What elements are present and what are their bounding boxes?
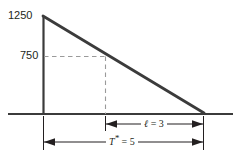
lead-time-equals: = [148, 118, 159, 129]
lead-time-dimension-label: ℓ = 3 [141, 118, 167, 129]
cycle-time-equals: = [119, 136, 130, 147]
cycle-time-arrow-right [192, 138, 203, 146]
cycle-time-arrow-left [44, 138, 55, 146]
lead-time-value: 3 [159, 118, 164, 129]
cycle-time-value: 5 [130, 136, 135, 147]
inventory-depletion-figure: 1250 750 ℓ = 3 T* = 5 [0, 0, 241, 164]
peak-inventory-label: 1250 [8, 9, 32, 21]
cycle-time-dimension-label: T* = 5 [106, 136, 138, 147]
lead-time-arrow-left [106, 120, 117, 128]
inventory-depletion-line [43, 16, 204, 113]
reorder-point-label: 750 [20, 49, 38, 61]
lead-time-arrow-right [192, 120, 203, 128]
